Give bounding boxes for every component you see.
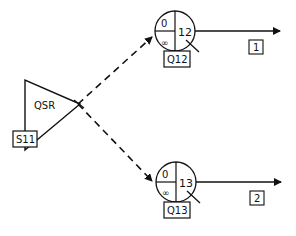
output-label-2: 2	[254, 193, 260, 204]
queue-capacity-bottom: ∞	[162, 188, 170, 198]
queue-id: 13	[179, 177, 193, 190]
queue-id: 12	[178, 26, 192, 39]
source-node[interactable]: QSR S11	[13, 80, 80, 150]
queue-capacity-bottom: ∞	[161, 38, 169, 48]
connector-to-q13	[78, 104, 152, 181]
queue-node-q13[interactable]: 0 ∞ 13 Q13	[156, 162, 200, 218]
queue-capacity-top: 0	[162, 169, 168, 180]
queue-diagram: QSR S11 0 ∞ 12 Q12 1 0 ∞ 13 Q13 2	[0, 0, 296, 236]
source-label: S11	[16, 134, 35, 145]
source-name: QSR	[34, 100, 55, 111]
queue-label: Q12	[167, 54, 188, 65]
output-label-1: 1	[253, 42, 259, 53]
connector-to-q12	[78, 37, 152, 104]
queue-node-q12[interactable]: 0 ∞ 12 Q12	[155, 11, 199, 67]
queue-label: Q13	[167, 205, 188, 216]
queue-capacity-top: 0	[161, 18, 167, 29]
